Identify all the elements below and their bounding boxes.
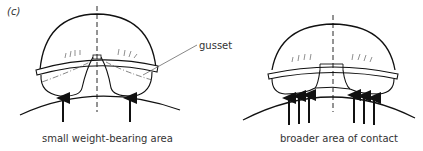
right-diagram <box>243 15 415 125</box>
gusset-callout-line <box>143 45 197 75</box>
right-dome <box>272 24 395 70</box>
gusset-label: gusset <box>199 40 232 51</box>
right-ground-curve <box>243 97 415 120</box>
left-ground-curve <box>20 96 180 115</box>
left-diagram <box>20 6 180 122</box>
right-caption: broader area of contact <box>280 133 398 144</box>
diagram-graphics <box>0 0 423 151</box>
left-caption: small weight-bearing area <box>42 133 173 144</box>
